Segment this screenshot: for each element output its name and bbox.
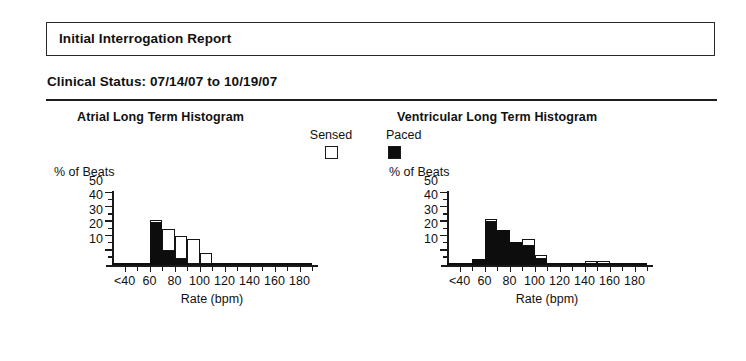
histogram-bar xyxy=(300,264,313,265)
y-tick-label: 20 xyxy=(424,218,438,231)
x-tick-label: 180 xyxy=(624,275,645,288)
x-tick xyxy=(300,265,301,272)
x-tick-label: 120 xyxy=(549,275,570,288)
x-tick-label: 160 xyxy=(599,275,620,288)
x-tick-label: 100 xyxy=(189,275,210,288)
x-tick-label: 160 xyxy=(264,275,285,288)
ventricular-plot-area: Rate (bpm) 1020304050<406080100120140160… xyxy=(447,193,647,265)
histogram-bar xyxy=(547,264,560,265)
x-tick xyxy=(250,265,251,272)
y-tick-label: 40 xyxy=(424,189,438,202)
histogram-bar xyxy=(162,229,175,265)
y-tick-label: 30 xyxy=(424,204,438,217)
y-tick-label: 10 xyxy=(424,232,438,245)
x-tick xyxy=(187,265,188,271)
y-tick-label: 30 xyxy=(89,204,103,217)
histogram-bar xyxy=(522,239,535,265)
bar-segment-sensed xyxy=(535,255,548,259)
histogram-bar xyxy=(572,264,585,265)
x-tick xyxy=(137,265,138,271)
x-tick xyxy=(522,265,523,271)
y-tick-minor xyxy=(443,256,447,257)
histogram-bar xyxy=(585,261,598,265)
y-tick-minor xyxy=(108,256,112,257)
x-tick xyxy=(237,265,238,271)
x-tick xyxy=(510,265,511,272)
y-tick-label: 10 xyxy=(89,232,103,245)
histogram-bar xyxy=(560,264,573,265)
y-tick-label: 50 xyxy=(424,175,438,188)
histogram-bar xyxy=(112,264,125,265)
y-tick xyxy=(440,206,447,207)
bar-segment-paced xyxy=(112,263,125,265)
x-tick-label: 140 xyxy=(239,275,260,288)
bar-segment-paced xyxy=(150,223,163,265)
y-tick-minor xyxy=(108,199,112,200)
bar-segment-paced xyxy=(125,263,138,265)
report-title-box: Initial Interrogation Report xyxy=(46,22,715,56)
ventricular-x-axis-label: Rate (bpm) xyxy=(516,292,579,306)
histogram-bar xyxy=(137,264,150,265)
histogram-bar xyxy=(447,264,460,265)
histogram-bar xyxy=(485,219,498,265)
y-tick xyxy=(105,249,112,250)
y-tick-label: 50 xyxy=(89,175,103,188)
bar-segment-paced xyxy=(535,259,548,265)
x-tick xyxy=(622,265,623,271)
bar-segment-paced xyxy=(622,263,635,265)
atrial-y-axis-label: % of Beats xyxy=(54,165,114,179)
y-tick-minor xyxy=(443,242,447,243)
bar-segment-sensed xyxy=(585,261,598,264)
bar-segment-sensed xyxy=(200,253,213,263)
atrial-y-axis-line xyxy=(112,191,114,267)
atrial-histogram: % of Beats Rate (bpm) 1020304050<4060801… xyxy=(48,165,348,345)
y-tick-minor xyxy=(443,199,447,200)
y-tick xyxy=(105,220,112,221)
x-tick xyxy=(312,265,313,271)
bar-segment-paced xyxy=(287,263,300,265)
x-tick-label: 60 xyxy=(478,275,492,288)
atrial-panel-title: Atrial Long Term Histogram xyxy=(77,110,244,124)
histogram-bar xyxy=(460,264,473,265)
x-tick xyxy=(547,265,548,271)
x-tick xyxy=(647,265,648,271)
bar-segment-paced xyxy=(447,263,460,265)
x-tick xyxy=(275,265,276,272)
x-tick xyxy=(610,265,611,272)
bar-segment-paced xyxy=(635,263,648,265)
report-page: Initial Interrogation Report Clinical St… xyxy=(0,0,746,361)
histogram-bar xyxy=(535,255,548,265)
x-tick-label: 180 xyxy=(289,275,310,288)
x-tick-label: 120 xyxy=(214,275,235,288)
histogram-bar xyxy=(125,264,138,265)
bar-segment-paced xyxy=(237,263,250,265)
header-divider xyxy=(46,99,717,101)
x-tick xyxy=(472,265,473,271)
x-tick-label: 100 xyxy=(524,275,545,288)
bar-segment-paced xyxy=(460,263,473,265)
x-tick xyxy=(497,265,498,271)
legend-item-sensed: Sensed xyxy=(305,128,357,159)
y-tick xyxy=(105,192,112,193)
y-tick-minor xyxy=(443,213,447,214)
x-tick xyxy=(175,265,176,272)
y-tick-minor xyxy=(443,228,447,229)
x-tick-label: 60 xyxy=(143,275,157,288)
bar-segment-sensed xyxy=(150,220,163,223)
x-tick xyxy=(485,265,486,272)
histogram-bar xyxy=(237,264,250,265)
histogram-bar xyxy=(200,253,213,265)
histogram-bar xyxy=(187,239,200,265)
bar-segment-paced xyxy=(175,259,188,265)
x-tick xyxy=(225,265,226,272)
filled-square-icon xyxy=(388,146,401,159)
bar-segment-paced xyxy=(137,263,150,265)
histogram-bar xyxy=(622,264,635,265)
bar-segment-paced xyxy=(485,222,498,265)
bar-segment-sensed xyxy=(187,239,200,263)
x-tick-label: <40 xyxy=(114,275,135,288)
bar-segment-sensed xyxy=(597,261,610,264)
histogram-bar xyxy=(250,264,263,265)
x-tick-label: <40 xyxy=(449,275,470,288)
x-tick xyxy=(125,265,126,272)
